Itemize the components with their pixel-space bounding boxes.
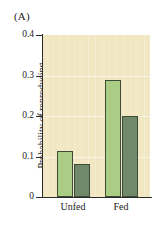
- bar-fed-light-green: [105, 80, 121, 197]
- y-tick-label-0.1: 0.1: [22, 152, 34, 162]
- y-tick-label-0.2: 0.2: [22, 111, 34, 121]
- bar-fed-dark-green: [122, 116, 138, 197]
- x-axis-line: [40, 197, 152, 198]
- plot-area: [42, 35, 150, 197]
- bar-unfed-light-green: [57, 151, 73, 198]
- y-tick-label-0.3: 0.3: [22, 71, 34, 81]
- x-tick-label-fed: Fed: [98, 201, 144, 212]
- y-axis-line: [42, 34, 43, 198]
- x-tick-label-unfed: Unfed: [50, 201, 96, 212]
- y-tick-mark-0.3: [36, 76, 42, 77]
- y-tick-mark-0.1: [36, 157, 42, 158]
- y-tick-mark-0.2: [36, 116, 42, 117]
- panel-label: (A): [14, 10, 30, 22]
- figure-panel-a: (A) Probability of reproducing: [0, 0, 160, 227]
- y-tick-mark-0.4: [36, 35, 42, 36]
- bar-unfed-dark-green: [74, 164, 90, 197]
- y-tick-mark-0: [36, 197, 42, 198]
- y-tick-label-0.4: 0.4: [22, 30, 34, 40]
- gridline-0.3: [42, 76, 150, 77]
- y-tick-label-0: 0: [29, 192, 34, 202]
